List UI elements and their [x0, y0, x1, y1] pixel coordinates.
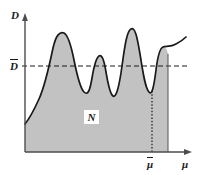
- mubar-tick-label: μ: [147, 157, 153, 170]
- figure-canvas: D D N μ μ: [0, 0, 199, 175]
- shaded-region-N: [25, 29, 168, 152]
- y-axis-arrowhead: [22, 13, 28, 21]
- dbar-level-label-text: D: [10, 59, 18, 72]
- x-axis-arrowhead: [184, 149, 192, 155]
- dbar-level-label: D: [10, 59, 18, 72]
- x-axis-label: μ: [182, 159, 188, 170]
- shaded-region-label: N: [84, 110, 99, 124]
- mubar-tick-label-text: μ: [147, 157, 153, 170]
- density-of-states-plot: [0, 0, 199, 175]
- y-axis-label: D: [11, 10, 19, 21]
